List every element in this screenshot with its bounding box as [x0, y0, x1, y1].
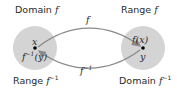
f-of-x-label: f(x): [132, 34, 148, 45]
domain-f-label: Domain f: [15, 4, 58, 15]
inverse-arrow-label: f−1: [80, 65, 92, 76]
range-f-inverse-label: Range f−1: [13, 75, 59, 86]
range-f-label: Range f: [121, 4, 158, 15]
point-x-label: x: [32, 36, 37, 47]
domain-f-inverse-label: Domain f−1: [119, 75, 171, 86]
forward-arrow-label: f: [86, 14, 90, 25]
f-inverse-of-y-label: f−1(y): [22, 51, 47, 62]
point-y-label: y: [140, 51, 145, 62]
point-y: [141, 46, 145, 50]
